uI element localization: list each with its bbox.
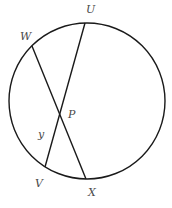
- point-label-v: V: [35, 177, 44, 190]
- point-label-u: U: [86, 3, 96, 16]
- point-label-p: P: [67, 108, 76, 121]
- chord-wx: [32, 46, 86, 179]
- point-label-w: W: [20, 30, 33, 43]
- chord-uv: [45, 23, 85, 167]
- circle-chords-diagram: U W P V X y: [0, 0, 172, 208]
- point-label-x: X: [87, 186, 97, 199]
- segment-label-y: y: [37, 128, 45, 141]
